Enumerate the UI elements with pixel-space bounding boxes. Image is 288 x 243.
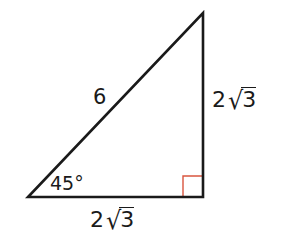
angle-label: 45° bbox=[50, 174, 84, 193]
right-side-expression: 2√3 bbox=[212, 87, 256, 113]
radical-sign-icon: √ bbox=[228, 88, 243, 113]
right-side-label: 2√3 bbox=[212, 87, 256, 113]
right-triangle-diagram bbox=[0, 0, 288, 243]
hypotenuse-label: 6 bbox=[93, 87, 106, 108]
bottom-side-radicand: 3 bbox=[119, 207, 134, 231]
bottom-side-radical: √3 bbox=[106, 207, 134, 233]
right-side-coefficient: 2 bbox=[212, 89, 226, 111]
bottom-side-coefficient: 2 bbox=[90, 209, 104, 231]
radical-sign-icon: √ bbox=[106, 208, 121, 233]
right-angle-marker bbox=[183, 176, 203, 197]
triangle-outline bbox=[28, 13, 203, 197]
right-side-radicand: 3 bbox=[241, 87, 256, 111]
bottom-side-expression: 2√3 bbox=[90, 207, 134, 233]
right-side-radical: √3 bbox=[228, 87, 256, 113]
bottom-side-label: 2√3 bbox=[90, 207, 134, 233]
